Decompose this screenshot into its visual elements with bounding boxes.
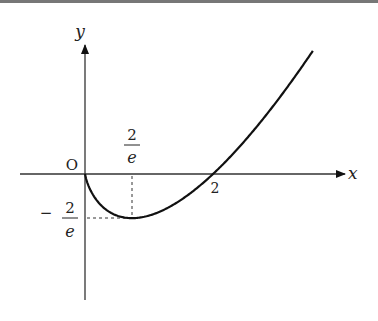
figure: y x O 2 2 e − 2 e [0,0,378,321]
graph: y x O 2 2 e − 2 e [0,0,378,321]
y-frac-denominator: e [65,222,74,241]
y-frac-numerator: 2 [65,199,75,217]
x-axis-label: x [348,163,358,183]
x-tick-2: 2 [211,180,220,196]
y-axis-label: y [74,21,85,41]
function-curve [85,51,313,218]
x-frac-denominator: e [127,148,136,167]
x-frac-numerator: 2 [127,126,137,144]
y-frac-sign: − [40,204,53,222]
origin-label: O [66,156,78,174]
